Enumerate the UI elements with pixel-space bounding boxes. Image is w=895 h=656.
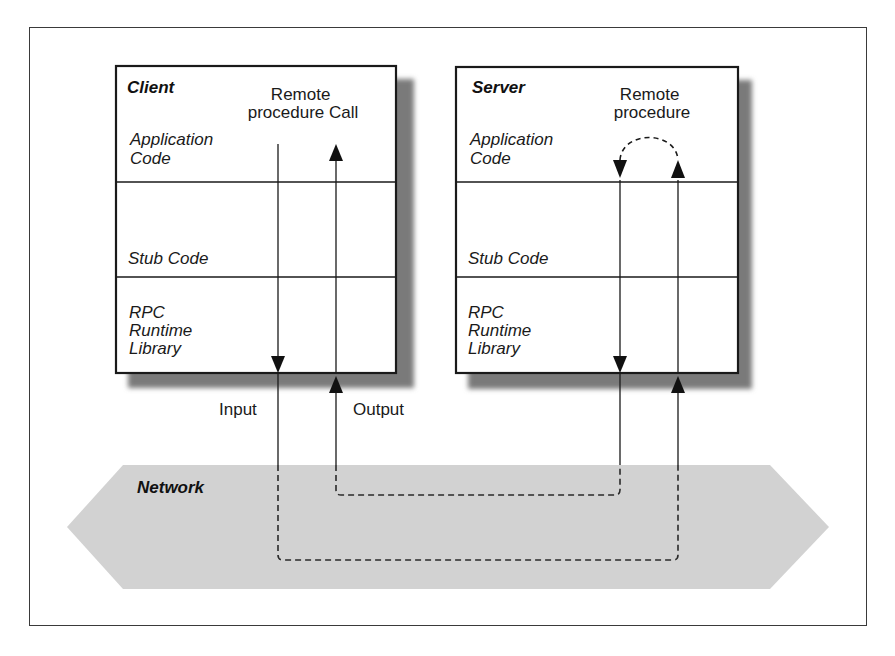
client-box: Client Application Code Stub Code RPC Ru… (116, 66, 414, 388)
server-annotation: Remote procedure (614, 85, 691, 122)
network-label: Network (137, 478, 206, 497)
server-box: Server Application Code Stub Code RPC Ru… (456, 67, 752, 389)
server-layer-stub: Stub Code (468, 249, 548, 268)
input-label: Input (219, 400, 257, 419)
client-title: Client (127, 78, 176, 97)
output-label: Output (353, 400, 404, 419)
rpc-diagram: Network Client Application Code Stub Cod… (0, 0, 895, 656)
server-title: Server (472, 78, 526, 97)
diagram-canvas: Network Client Application Code Stub Cod… (0, 0, 895, 656)
client-layer-stub: Stub Code (128, 249, 208, 268)
